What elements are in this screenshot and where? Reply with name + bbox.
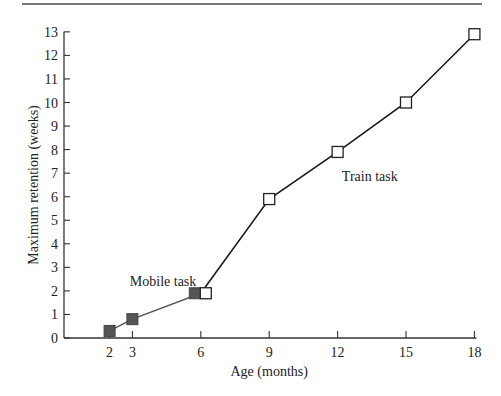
series-line-mobile-task (110, 293, 201, 331)
x-axis-title: Age (months) (231, 364, 309, 380)
series-layer (104, 29, 480, 337)
axes: 0123456789101112132369121518 (44, 25, 481, 360)
y-tick-label: 4 (51, 237, 58, 252)
y-tick-label: 9 (51, 119, 58, 134)
x-tick-label: 2 (106, 345, 113, 360)
data-point-train (200, 288, 211, 299)
x-tick-label: 6 (197, 345, 204, 360)
data-point-train (401, 97, 412, 108)
x-tick-label: 12 (331, 345, 345, 360)
retention-chart: 0123456789101112132369121518 Age (months… (0, 0, 501, 396)
y-tick-label: 11 (45, 72, 58, 87)
y-tick-label: 5 (51, 213, 58, 228)
annotation-mobile-task: Mobile task (130, 274, 197, 289)
x-tick-label: 15 (399, 345, 413, 360)
series-line-train-task (201, 34, 475, 293)
data-point-mobile (127, 314, 138, 325)
x-tick-label: 18 (467, 345, 481, 360)
data-point-train (469, 29, 480, 40)
y-axis-title: Maximum retention (weeks) (26, 105, 42, 265)
y-tick-label: 7 (51, 166, 58, 181)
annotation-train-task: Train task (342, 169, 398, 184)
y-tick-label: 13 (44, 25, 58, 40)
y-tick-label: 12 (44, 48, 58, 63)
y-tick-label: 2 (51, 284, 58, 299)
x-tick-label: 9 (266, 345, 273, 360)
y-tick-label: 1 (51, 307, 58, 322)
data-point-train (332, 146, 343, 157)
x-tick-label: 3 (129, 345, 136, 360)
y-tick-label: 0 (51, 331, 58, 346)
y-tick-label: 3 (51, 260, 58, 275)
y-tick-label: 8 (51, 143, 58, 158)
y-tick-label: 10 (44, 96, 58, 111)
data-point-train (264, 194, 275, 205)
data-point-mobile (104, 325, 115, 336)
y-tick-label: 6 (51, 190, 58, 205)
